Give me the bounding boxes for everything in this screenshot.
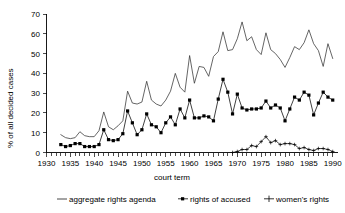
series-markers-womens-rights bbox=[231, 135, 335, 154]
legend-label-accused: rights of accused bbox=[190, 195, 250, 204]
data-point-marker bbox=[269, 106, 272, 109]
data-point-marker bbox=[169, 115, 172, 118]
data-point-marker bbox=[226, 91, 229, 94]
data-point-marker bbox=[240, 106, 243, 109]
data-point-marker bbox=[102, 128, 105, 131]
data-point-marker bbox=[164, 121, 167, 124]
legend-label-women: women's rights bbox=[275, 195, 329, 204]
x-tick-label: 1965 bbox=[205, 159, 223, 168]
data-point-marker bbox=[88, 145, 91, 148]
data-point-marker bbox=[159, 131, 162, 134]
data-point-marker bbox=[69, 144, 72, 147]
data-point-marker bbox=[202, 114, 205, 117]
y-axis-tick-labels: 010203040506070 bbox=[31, 10, 40, 158]
data-point-marker bbox=[236, 93, 239, 96]
data-point-marker bbox=[302, 146, 306, 150]
data-point-marker bbox=[150, 123, 153, 126]
chart-legend: aggregate rights agenda rights of accuse… bbox=[57, 195, 329, 204]
x-axis-tick-labels: 1930193519401945195019551960196519701975… bbox=[38, 159, 343, 168]
data-point-marker bbox=[97, 143, 100, 146]
x-tick-label: 1935 bbox=[61, 159, 79, 168]
y-tick-label: 60 bbox=[31, 30, 40, 39]
data-point-marker bbox=[145, 112, 148, 115]
data-point-marker bbox=[198, 116, 201, 119]
chart-container: % of all decided cases court term 010203… bbox=[0, 0, 345, 213]
data-point-marker bbox=[174, 123, 177, 126]
data-point-marker bbox=[121, 132, 124, 135]
data-point-marker bbox=[255, 107, 258, 110]
data-point-marker bbox=[231, 151, 235, 155]
x-tick-label: 1955 bbox=[157, 159, 175, 168]
x-tick-label: 1960 bbox=[181, 159, 199, 168]
series-line-rights-of-accused bbox=[61, 79, 333, 146]
data-point-marker bbox=[217, 97, 220, 100]
data-point-marker bbox=[221, 78, 224, 81]
data-point-marker bbox=[307, 148, 311, 152]
y-tick-label: 40 bbox=[31, 69, 40, 78]
data-point-marker bbox=[307, 94, 310, 97]
y-tick-label: 10 bbox=[31, 129, 40, 138]
data-point-marker bbox=[288, 142, 292, 146]
x-tick-label: 1945 bbox=[109, 159, 127, 168]
data-point-marker bbox=[188, 98, 191, 101]
y-tick-label: 30 bbox=[31, 89, 40, 98]
data-point-marker bbox=[64, 145, 67, 148]
x-tick-label: 1930 bbox=[38, 159, 56, 168]
x-axis-ticks bbox=[47, 153, 333, 158]
data-point-marker bbox=[283, 142, 287, 146]
data-point-marker bbox=[303, 91, 306, 94]
series-line-womens-rights bbox=[233, 137, 333, 153]
data-point-marker bbox=[322, 91, 325, 94]
data-point-marker bbox=[93, 145, 96, 148]
legend-label-aggregate: aggregate rights agenda bbox=[69, 195, 156, 204]
data-point-marker bbox=[155, 125, 158, 128]
y-tick-label: 0 bbox=[36, 149, 41, 158]
x-tick-label: 1980 bbox=[276, 159, 294, 168]
series-line-aggregate-rights-agenda bbox=[61, 22, 333, 139]
data-point-marker bbox=[317, 101, 320, 104]
x-axis-title: court term bbox=[154, 173, 190, 182]
x-tick-label: 1970 bbox=[228, 159, 246, 168]
data-point-marker bbox=[74, 142, 77, 145]
y-axis-title: % of all decided cases bbox=[6, 68, 15, 148]
data-point-marker bbox=[326, 96, 329, 99]
data-point-marker bbox=[331, 98, 334, 101]
data-point-marker bbox=[321, 147, 325, 151]
data-point-marker bbox=[288, 107, 291, 110]
data-point-marker bbox=[279, 106, 282, 109]
data-point-marker bbox=[231, 112, 234, 115]
data-point-marker bbox=[212, 119, 215, 122]
x-tick-label: 1985 bbox=[300, 159, 318, 168]
data-point-marker bbox=[178, 107, 181, 110]
data-point-marker bbox=[136, 133, 139, 136]
data-point-marker bbox=[245, 108, 248, 111]
series-markers-rights-of-accused bbox=[59, 78, 334, 148]
data-point-marker bbox=[274, 103, 277, 106]
data-point-marker bbox=[83, 145, 86, 148]
y-tick-label: 20 bbox=[31, 109, 40, 118]
data-point-marker bbox=[312, 113, 315, 116]
data-point-marker bbox=[317, 147, 321, 151]
y-tick-label: 70 bbox=[31, 10, 40, 19]
data-point-marker bbox=[59, 143, 62, 146]
data-point-marker bbox=[260, 106, 263, 109]
data-point-marker bbox=[240, 148, 244, 152]
data-point-marker bbox=[312, 149, 316, 153]
x-tick-label: 1950 bbox=[133, 159, 151, 168]
data-point-marker bbox=[131, 121, 134, 124]
chart-plot-area: % of all decided cases court term 010203… bbox=[0, 0, 345, 213]
data-point-marker bbox=[78, 142, 81, 145]
data-point-marker bbox=[140, 128, 143, 131]
data-point-marker bbox=[264, 99, 267, 102]
x-tick-label: 1975 bbox=[252, 159, 270, 168]
data-point-marker bbox=[293, 96, 296, 99]
data-point-marker bbox=[326, 148, 330, 152]
x-tick-label: 1940 bbox=[85, 159, 103, 168]
data-point-marker bbox=[193, 116, 196, 119]
data-point-marker bbox=[116, 138, 119, 141]
data-point-marker bbox=[207, 115, 210, 118]
data-point-marker bbox=[107, 138, 110, 141]
data-point-marker bbox=[126, 109, 129, 112]
y-axis-ticks bbox=[43, 14, 47, 153]
data-point-marker bbox=[298, 98, 301, 101]
